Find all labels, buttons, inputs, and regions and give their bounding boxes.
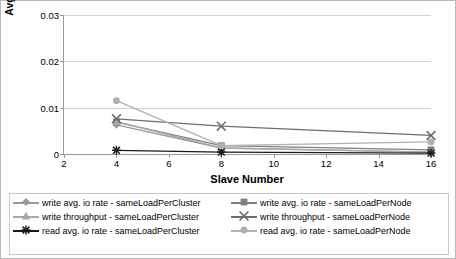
data-point-star [22,226,31,235]
x-tick-label: 14 [373,158,384,169]
data-point-star [217,148,226,157]
y-tick-label: 0.01 [41,102,60,113]
data-point-star [427,149,436,158]
data-point-cross [240,212,249,221]
legend-label: write throughput - sameLoadPerNode [260,212,410,222]
legend-marker-square [239,197,250,210]
data-point-triangle [22,212,30,220]
legend-marker-diamond [21,197,32,210]
series-line [116,122,431,150]
x-tick-label: 4 [114,158,119,169]
legend-swatch [231,198,257,208]
series-layer [64,15,431,154]
y-axis-label-line-1: Avg. I/O & Throughput [3,0,15,25]
data-point-circle [218,142,225,149]
legend-item: write throughput - sameLoadPerNode [231,210,445,224]
data-point-circle [428,139,435,146]
y-axis-label-line-2: (normalized) [15,0,27,25]
legend-label: read avg. io rate - sameLoadPerCluster [42,226,200,236]
chart-legend: write avg. io rate - sameLoadPerClusterw… [9,193,449,255]
plot-container: Avg. I/O & Throughput (normalized) 00.01… [1,1,456,191]
legend-marker-star [21,225,32,238]
data-point-star [112,146,121,155]
y-tick-label: 0 [54,149,59,160]
x-tick-label: 10 [268,158,279,169]
legend-swatch [13,226,39,236]
x-axis-label: Slave Number [63,173,431,185]
x-tick-label: 16 [426,158,437,169]
legend-swatch [13,198,39,208]
legend-swatch [231,212,257,222]
legend-label: read avg. io rate - sameLoadPerNode [260,226,411,236]
x-tick-label: 2 [61,158,66,169]
x-tick-label: 8 [219,158,224,169]
legend-swatch [13,212,39,222]
y-tick-label: 0.03 [41,10,60,21]
y-axis-label: Avg. I/O & Throughput (normalized) [3,0,27,25]
legend-marker-circle [239,225,250,238]
legend-item: write avg. io rate - sameLoadPerNode [231,196,445,210]
legend-item: read avg. io rate - sameLoadPerCluster [13,224,227,238]
legend-item: write avg. io rate - sameLoadPerCluster [13,196,227,210]
data-point-circle [241,227,248,234]
x-tick-label: 12 [321,158,332,169]
legend-swatch [231,226,257,236]
data-point-diamond [22,198,30,206]
legend-label: write avg. io rate - sameLoadPerCluster [42,198,201,208]
plot-area: 00.010.020.03246810121416 [63,15,431,155]
legend-item: write throughput - sameLoadPerCluster [13,210,227,224]
chart-figure: Avg. I/O & Throughput (normalized) 00.01… [0,0,456,259]
series-line [116,122,431,153]
legend-label: write throughput - sameLoadPerCluster [42,212,199,222]
data-point-circle [113,97,120,104]
legend-marker-cross [239,211,250,224]
data-point-square [241,199,248,206]
legend-item: read avg. io rate - sameLoadPerNode [231,224,445,238]
legend-marker-triangle [21,211,32,224]
y-tick-label: 0.02 [41,56,60,67]
legend-label: write avg. io rate - sameLoadPerNode [260,198,412,208]
x-tick-label: 6 [166,158,171,169]
series-line [116,101,431,146]
